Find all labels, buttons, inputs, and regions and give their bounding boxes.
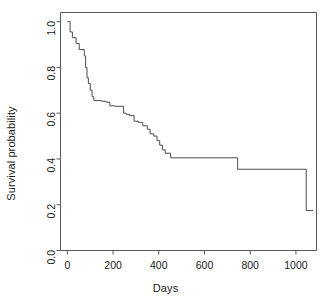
y-axis-title: Survival probability xyxy=(0,0,22,307)
x-tick-label: 0 xyxy=(44,259,90,271)
x-tick-label: 200 xyxy=(90,259,136,271)
y-tick-label: 0.2 xyxy=(45,204,57,244)
x-tick-label: 600 xyxy=(182,259,228,271)
plot-frame xyxy=(61,13,317,251)
x-tick-label: 1000 xyxy=(273,259,319,271)
y-tick-label: 0.6 xyxy=(45,112,57,152)
x-tick-label: 400 xyxy=(136,259,182,271)
survival-step-curve xyxy=(67,22,313,211)
y-tick-label: 1.0 xyxy=(45,21,57,61)
axis-ticks xyxy=(57,22,296,255)
x-tick-label: 800 xyxy=(227,259,273,271)
survival-curve-figure: 0.00.20.40.60.81.0 02004006008001000 Sur… xyxy=(0,0,331,307)
y-tick-label: 0.8 xyxy=(45,66,57,106)
x-axis-title: Days xyxy=(0,282,331,294)
y-tick-label: 0.4 xyxy=(45,158,57,198)
